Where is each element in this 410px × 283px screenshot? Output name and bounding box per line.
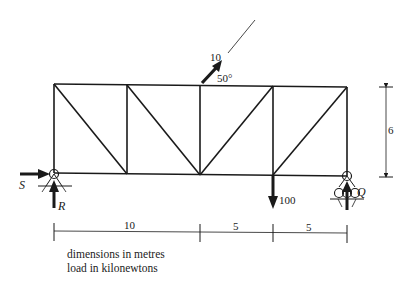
left-pin-support: S R xyxy=(19,169,72,213)
span-dimensions xyxy=(54,223,347,243)
reaction-s-arrowhead xyxy=(38,169,50,179)
vertical-load-magnitude: 100 xyxy=(279,194,296,206)
vertical-load: 100 xyxy=(268,176,296,209)
units-note-loads: load in kilonewtons xyxy=(67,261,165,275)
right-roller-support: Q xyxy=(330,172,366,211)
diagonal-member-1 xyxy=(54,84,127,174)
inclined-load-magnitude: 10 xyxy=(210,51,222,63)
reaction-q-arrowhead xyxy=(342,181,352,192)
inclined-load-arrow-shaft xyxy=(202,68,216,83)
inclined-load: 10 50° xyxy=(202,20,255,84)
units-note: dimensions in metres load in kilonewtons xyxy=(67,247,165,275)
units-note-dimensions: dimensions in metres xyxy=(67,247,165,261)
diagonal-member-3 xyxy=(200,86,273,175)
reaction-r-label: R xyxy=(57,199,66,213)
ground-hatch xyxy=(62,186,66,192)
span-dimension-label-1: 10 xyxy=(124,219,136,231)
ground-hatch xyxy=(42,186,46,192)
height-dimension-label: 6 xyxy=(388,124,394,136)
diagonal-member-4 xyxy=(273,87,347,175)
load-direction-reference-line xyxy=(228,20,255,53)
truss-diagram: 10 50° 100 S R Q xyxy=(0,0,410,283)
vertical-load-arrowhead xyxy=(268,196,278,209)
reaction-s-label: S xyxy=(19,178,25,192)
span-dimension-label-2: 5 xyxy=(233,220,239,232)
span-dimension-label-3: 5 xyxy=(306,221,312,233)
ground-hatch xyxy=(338,199,342,207)
ground-hatch xyxy=(352,199,356,207)
truss-members xyxy=(54,84,347,176)
reaction-q-label: Q xyxy=(357,185,366,199)
inclined-load-angle: 50° xyxy=(217,72,232,84)
diagonal-member-2 xyxy=(127,85,200,175)
